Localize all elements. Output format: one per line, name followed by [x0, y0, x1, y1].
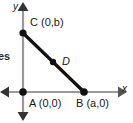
point-label-b: B (a,0) — [76, 98, 109, 109]
coordinate-plane-figure: es C (0,b) D A (0,0) B (a,0) x y — [0, 0, 133, 123]
arrow-down-icon — [18, 112, 29, 121]
clipped-text-fragment: es — [0, 51, 10, 62]
point-B-marker — [80, 88, 88, 96]
point-C-marker — [19, 29, 26, 36]
arrow-up-icon — [18, 2, 29, 11]
y-axis-label: y — [13, 2, 18, 12]
arrow-left-icon — [0, 87, 9, 98]
point-label-d: D — [62, 56, 70, 67]
x-axis-label: x — [122, 84, 127, 94]
point-label-a: A (0,0) — [29, 98, 61, 109]
point-D-marker — [50, 59, 56, 65]
point-label-c: C (0,b) — [30, 17, 64, 28]
point-A-marker — [19, 88, 27, 96]
